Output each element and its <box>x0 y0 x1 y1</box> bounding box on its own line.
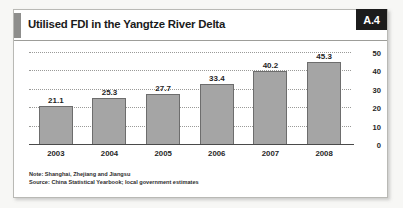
y-axis-tick-label: 0 <box>355 141 381 150</box>
figure-header: Utilised FDI in the Yangtze River Delta … <box>14 10 387 41</box>
bar-value-label: 25.3 <box>102 88 118 97</box>
bar-value-label: 27.7 <box>155 84 171 93</box>
x-axis-tick-label: 2008 <box>297 149 350 163</box>
bar-value-label: 45.3 <box>316 52 332 61</box>
footnote-source: Source: China Statistical Yearbook; loca… <box>29 178 377 186</box>
bar-value-label: 40.2 <box>263 61 279 70</box>
figure-number-badge: A.4 <box>356 9 387 30</box>
bar <box>39 106 73 145</box>
page-title: Utilised FDI in the Yangtze River Delta <box>28 18 225 30</box>
bar <box>146 94 180 145</box>
bar <box>200 84 234 145</box>
bar <box>253 71 287 145</box>
bar <box>307 62 341 145</box>
bar-slot: 27.7 <box>136 53 189 145</box>
bar-value-label: 21.1 <box>48 96 64 105</box>
footnote-note: Note: Shanghai, Zhejiang and Jiangsu <box>29 170 377 178</box>
x-axis-tick-label: 2006 <box>190 149 243 163</box>
y-axis-tick-label: 10 <box>355 122 381 131</box>
y-axis-tick-label: 50 <box>355 49 381 58</box>
y-axis-tick-label: 30 <box>355 85 381 94</box>
figure-panel: Utilised FDI in the Yangtze River Delta … <box>13 9 388 198</box>
bar-slot: 21.1 <box>29 53 82 145</box>
x-axis-tick-label: 2005 <box>136 149 189 163</box>
footnotes: Note: Shanghai, Zhejiang and Jiangsu Sou… <box>29 170 377 186</box>
chart-area: 21.125.327.733.440.245.3 50403020100 200… <box>14 41 389 167</box>
bar-value-label: 33.4 <box>209 74 225 83</box>
x-axis-tick-label: 2004 <box>83 149 136 163</box>
title-accent-bar <box>14 13 21 38</box>
y-axis-tick-label: 40 <box>355 67 381 76</box>
x-axis-tick-label: 2003 <box>29 149 82 163</box>
bar <box>92 98 126 145</box>
bar-slot: 33.4 <box>190 53 243 145</box>
x-axis-line <box>29 144 354 145</box>
x-axis: 200320042005200620072008 <box>29 149 351 163</box>
y-axis-tick-label: 20 <box>355 104 381 113</box>
scanned-page: Utilised FDI in the Yangtze River Delta … <box>0 0 403 208</box>
plot-region: 21.125.327.733.440.245.3 <box>29 53 351 145</box>
bar-slot: 45.3 <box>297 53 350 145</box>
x-axis-tick-label: 2007 <box>244 149 297 163</box>
bar-series: 21.125.327.733.440.245.3 <box>29 53 351 145</box>
y-axis: 50403020100 <box>355 53 381 145</box>
bar-slot: 40.2 <box>244 53 297 145</box>
bar-slot: 25.3 <box>83 53 136 145</box>
